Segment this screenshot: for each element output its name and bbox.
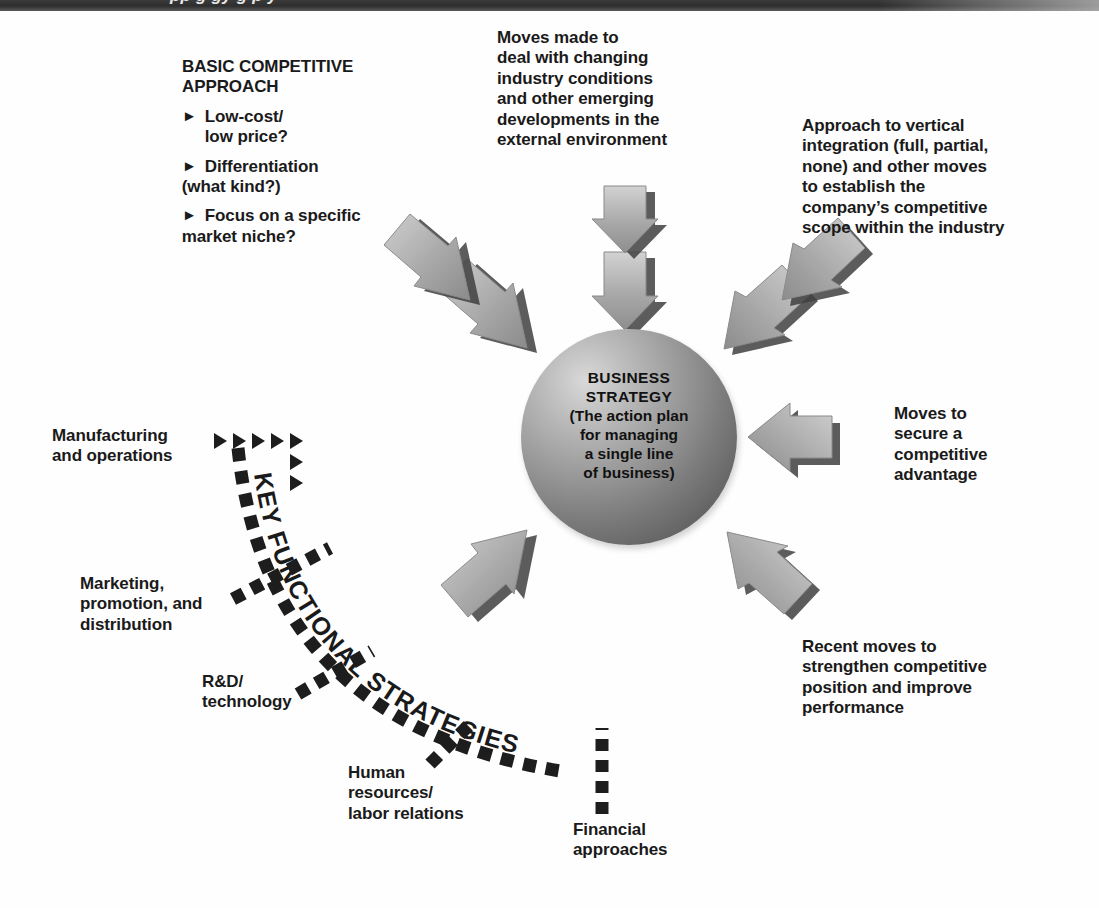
bullet-item-low-cost: ► Low-cost/ low price? <box>182 107 361 148</box>
pointer-row-marketing <box>233 548 330 599</box>
bullet-item-differentiation: ► Differentiation (what kind?) <box>182 157 361 198</box>
callout-line: secure a <box>894 424 987 444</box>
callout-line: strengthen competitive <box>802 657 987 677</box>
callout-line: distribution <box>80 615 202 635</box>
callout-competitive-advantage: Moves to secure a competitive advantage <box>894 404 987 486</box>
callout-line: integration (full, partial, <box>802 136 1004 156</box>
callout-line: Recent moves to <box>802 637 987 657</box>
callout-vertical-integration: Approach to vertical integration (full, … <box>802 116 1004 238</box>
callout-line: Moves made to <box>497 28 667 48</box>
callout-line: labor relations <box>348 804 464 824</box>
callout-line: promotion, and <box>80 594 202 614</box>
callout-line: and other emerging <box>497 89 667 109</box>
callout-line: to establish the <box>802 177 1004 197</box>
callout-line: performance <box>802 698 987 718</box>
callout-line: Financial <box>573 820 667 840</box>
bullet-text: Low-cost/ low price? <box>205 107 288 148</box>
callout-line: Manufacturing <box>52 426 172 446</box>
bullet-line: (what kind?) <box>182 177 319 197</box>
callout-line: technology <box>202 692 292 712</box>
callout-line: position and improve <box>802 678 987 698</box>
callout-line: industry conditions <box>497 69 667 89</box>
bullet-item-focus: ► Focus on a specific market niche? <box>182 206 361 247</box>
callout-line: none) and other moves <box>802 157 1004 177</box>
callout-external-environment: Moves made to deal with changing industr… <box>497 28 667 150</box>
callout-line: resources/ <box>348 783 464 803</box>
callout-line: advantage <box>894 465 987 485</box>
pointer-row-human-resources <box>430 724 470 764</box>
callout-marketing: Marketing, promotion, and distribution <box>80 574 202 635</box>
callout-basic-competitive-approach: BASIC COMPETITIVE APPROACH ► Low-cost/ l… <box>182 57 361 247</box>
callout-line: Human <box>348 763 464 783</box>
bullet-line: Low-cost/ <box>205 107 288 127</box>
bullet-line: low price? <box>205 127 288 147</box>
callout-rnd: R&D/ technology <box>202 672 292 713</box>
callout-line: external environment <box>497 130 667 150</box>
callout-line: Moves to <box>894 404 987 424</box>
callout-line: approaches <box>573 840 667 860</box>
bullet-text: Focus on a specific market niche? <box>205 206 361 247</box>
callout-financial: Financial approaches <box>573 820 667 861</box>
callout-line: deal with changing <box>497 48 667 68</box>
bullet-line: Differentiation <box>205 157 319 177</box>
callout-line: competitive <box>894 445 987 465</box>
callout-line: Marketing, <box>80 574 202 594</box>
heading-line-1: BASIC COMPETITIVE <box>182 57 361 77</box>
callout-line: company’s competitive <box>802 198 1004 218</box>
bullet-line: market niche? <box>182 227 361 247</box>
bullet-text: Differentiation (what kind?) <box>205 157 319 198</box>
diagram-canvas: pp g gy g p y <box>0 0 1099 908</box>
callout-line: developments in the <box>497 110 667 130</box>
pointer-row-rnd <box>298 651 372 694</box>
callout-human-resources: Human resources/ labor relations <box>348 763 464 824</box>
callout-line: scope within the industry <box>802 218 1004 238</box>
callout-line: R&D/ <box>202 672 292 692</box>
heading-line-2: APPROACH <box>182 77 361 97</box>
callout-line: Approach to vertical <box>802 116 1004 136</box>
callout-manufacturing: Manufacturing and operations <box>52 426 172 467</box>
callout-line: and operations <box>52 446 172 466</box>
bullet-line: Focus on a specific <box>205 206 361 226</box>
callout-recent-moves: Recent moves to strengthen competitive p… <box>802 637 987 719</box>
triangle-right-icon: ► <box>182 107 197 148</box>
